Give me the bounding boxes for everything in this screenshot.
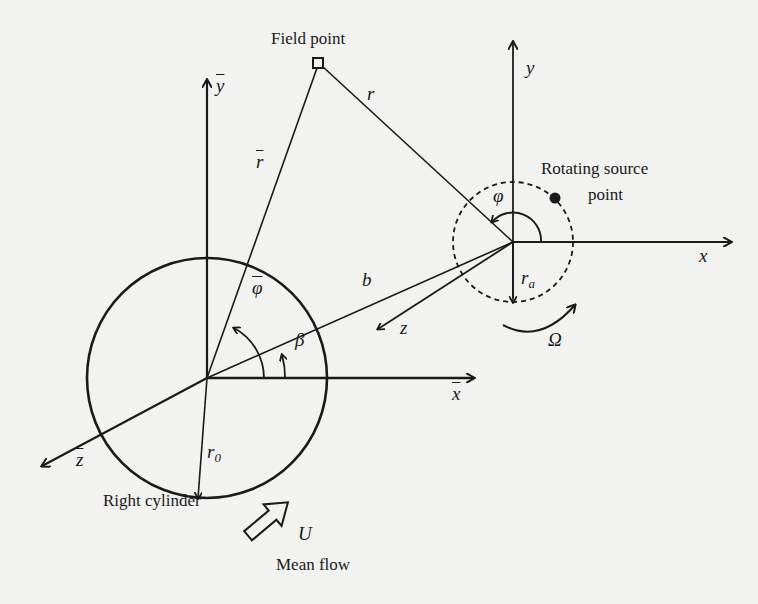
phi-bar-arc [234, 328, 264, 378]
diagram-canvas: Field point Rotating source point Right … [0, 0, 758, 604]
phi-arc [492, 212, 541, 242]
mean-flow-arrow-icon [239, 492, 297, 547]
field-point-marker [313, 58, 323, 68]
mean-flow-label: Mean flow [276, 556, 350, 573]
z-axis [378, 242, 513, 329]
beta-arc [282, 355, 285, 378]
r-bar-label: r [256, 152, 263, 171]
phi-label: φ [493, 186, 504, 205]
y-bar-label: y [216, 76, 224, 95]
b-label: b [362, 270, 372, 289]
omega-rotation-arrow [503, 305, 575, 332]
rotating-source-label-line2: point [588, 186, 623, 203]
omega-label: Ω [548, 330, 562, 349]
diagram-graphics [0, 0, 758, 604]
r-label: r [367, 84, 374, 103]
r-line [322, 66, 513, 242]
rotating-source-label-line1: Rotating source [541, 160, 648, 177]
u-label: U [298, 524, 312, 543]
b-line [207, 242, 513, 378]
y-label: y [526, 58, 534, 77]
z-label: z [400, 318, 407, 337]
beta-label: β [295, 330, 304, 349]
phi-bar-label: φ [252, 278, 263, 297]
z-bar-axis [42, 378, 207, 466]
r0-radius-arrow [198, 378, 207, 498]
x-label: x [699, 246, 707, 265]
rotating-source-point-marker [550, 193, 561, 204]
ra-label: ra [521, 268, 535, 290]
x-bar-label: x [452, 384, 460, 403]
right-cylinder-label: Right cylinder [103, 492, 201, 509]
r0-label: r0 [207, 442, 221, 464]
z-bar-label: z [76, 450, 83, 469]
field-point-label: Field point [271, 30, 345, 47]
